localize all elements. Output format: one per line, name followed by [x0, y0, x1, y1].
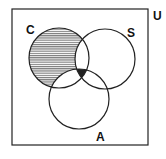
universe-label: U [153, 9, 162, 23]
venn-diagram: U C S A [0, 0, 166, 159]
set-s-label: S [127, 26, 135, 40]
set-c-label: C [26, 23, 35, 37]
set-a-label: A [96, 130, 105, 144]
